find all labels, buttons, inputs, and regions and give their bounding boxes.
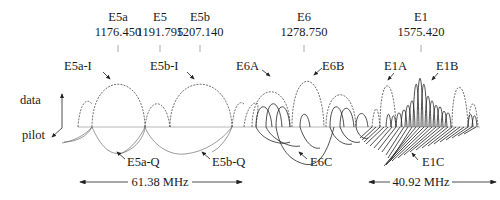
e1a-lobe	[380, 86, 396, 127]
label-e6b: E6B	[322, 59, 344, 73]
band-e1-name: E1	[414, 10, 428, 24]
label-e6a: E6A	[236, 59, 259, 73]
band-e1-freq: 1575.420	[398, 25, 445, 39]
label-e1b: E1B	[436, 59, 458, 73]
band-e6-name: E6	[297, 10, 311, 24]
iq-axes: data pilot	[20, 93, 62, 142]
e5b-q-lobe	[145, 127, 232, 154]
band-e5a-name: E5a	[108, 10, 128, 24]
band-e5a-freq: 1176.450	[95, 25, 141, 39]
pilot-axis-arrow-icon	[52, 128, 62, 137]
label-e5a-i: E5a-I	[64, 59, 92, 73]
label-e5a-q: E5a-Q	[127, 155, 160, 169]
e1c-hatch	[360, 127, 476, 166]
e1-bandwidth-label: 40.92 MHz	[393, 175, 450, 189]
galileo-spectrum-diagram: E5a 1176.450 E5 1191.795 E5b 1207.140 E6…	[0, 0, 500, 200]
e6-spectrum	[244, 81, 368, 164]
e1-spectrum	[360, 78, 478, 166]
band-e6-freq: 1278.750	[281, 25, 328, 39]
data-axis-label: data	[20, 93, 41, 107]
label-e6c: E6C	[310, 155, 332, 169]
band-e5b-name: E5b	[190, 10, 210, 24]
bandwidth-annotations: 61.38 MHz 40.92 MHz	[80, 175, 496, 189]
pilot-axis-label: pilot	[22, 128, 45, 142]
e5-spectrum	[62, 84, 244, 154]
e5a-i-lobe	[92, 84, 145, 127]
label-e5b-q: E5b-Q	[212, 155, 245, 169]
label-e1a: E1A	[384, 59, 407, 73]
band-labels: E5a 1176.450 E5 1191.795 E5b 1207.140 E6…	[95, 10, 445, 52]
label-e1c: E1C	[422, 155, 444, 169]
band-e5b-freq: 1207.140	[177, 25, 224, 39]
e5-bandwidth-label: 61.38 MHz	[132, 175, 189, 189]
band-e5-name: E5	[153, 10, 167, 24]
e6b-lobe	[292, 81, 324, 127]
e5b-i-lobe	[170, 84, 232, 127]
label-e5b-i: E5b-I	[150, 59, 178, 73]
